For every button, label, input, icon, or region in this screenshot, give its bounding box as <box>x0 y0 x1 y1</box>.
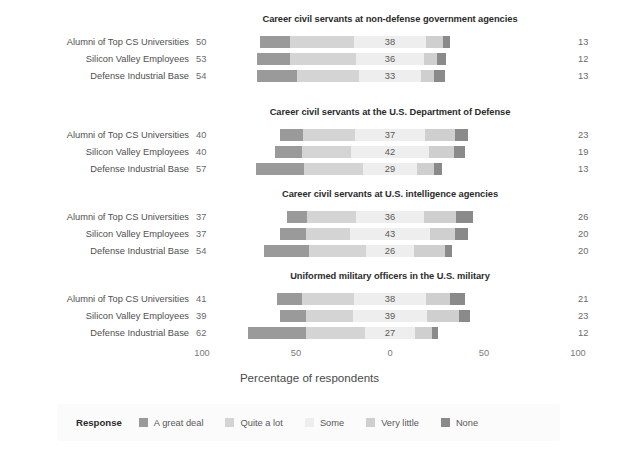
legend-label: Very little <box>381 418 419 428</box>
bar-segment <box>306 228 349 240</box>
chart-row: Defense Industrial Base541333 <box>0 70 619 85</box>
chart-row: Alumni of Top CS Universities402337 <box>0 129 619 144</box>
legend-item[interactable]: Very little <box>366 418 419 428</box>
row-bar: 29 <box>0 163 619 176</box>
chart-row: Alumni of Top CS Universities412138 <box>0 293 619 308</box>
chart-row: Alumni of Top CS Universities372636 <box>0 211 619 226</box>
bar-segment <box>290 36 354 48</box>
bar-segment <box>256 163 305 175</box>
bar-center-value: 39 <box>375 311 405 321</box>
bar-segment <box>455 228 468 240</box>
bar-center-value: 29 <box>375 164 405 174</box>
legend-swatch-icon <box>225 418 234 427</box>
bar-segment <box>257 70 296 82</box>
axis-tick-label: 50 <box>464 348 504 358</box>
bar-segment <box>309 245 365 257</box>
axis-tick-label: 100 <box>558 348 598 358</box>
row-bar: 33 <box>0 70 619 83</box>
bar-segment <box>445 245 453 257</box>
bar-segment <box>280 129 303 141</box>
bar-center-value: 26 <box>375 246 405 256</box>
row-bar: 36 <box>0 53 619 66</box>
chart-row: Silicon Valley Employees392339 <box>0 310 619 325</box>
chart-row: Alumni of Top CS Universities501338 <box>0 36 619 51</box>
bar-segment <box>304 163 362 175</box>
bar-segment <box>307 211 356 223</box>
legend-label: A great deal <box>154 418 204 428</box>
legend-item[interactable]: None <box>441 418 478 428</box>
x-axis: 10050050100 <box>0 348 619 364</box>
bar-segment <box>421 70 434 82</box>
bar-center-value: 43 <box>375 229 405 239</box>
bar-segment <box>430 228 454 240</box>
panel-title: Career civil servants at U.S. intelligen… <box>195 189 585 199</box>
bar-center-value: 37 <box>375 130 405 140</box>
bar-segment <box>280 310 306 322</box>
bar-segment <box>450 293 465 305</box>
bar-segment <box>426 36 443 48</box>
bar-segment <box>432 327 438 339</box>
panel-title: Career civil servants at the U.S. Depart… <box>195 107 585 117</box>
legend-item[interactable]: Some <box>305 418 344 428</box>
bar-segment <box>306 327 364 339</box>
bar-center-value: 36 <box>375 54 405 64</box>
bar-segment <box>302 146 351 158</box>
chart-row: Defense Industrial Base571329 <box>0 163 619 178</box>
bar-segment <box>306 310 353 322</box>
row-bar: 38 <box>0 36 619 49</box>
bar-center-value: 42 <box>375 147 405 157</box>
chart-row: Defense Industrial Base621227 <box>0 327 619 342</box>
bar-segment <box>426 293 450 305</box>
bar-segment <box>290 53 356 65</box>
bar-segment <box>264 245 309 257</box>
chart-row: Silicon Valley Employees401942 <box>0 146 619 161</box>
bar-segment <box>424 53 437 65</box>
row-bar: 36 <box>0 211 619 224</box>
bar-segment <box>434 163 442 175</box>
legend-item[interactable]: Quite a lot <box>225 418 282 428</box>
chart-row: Defense Industrial Base542026 <box>0 245 619 260</box>
legend-title: Response <box>76 417 122 428</box>
bar-segment <box>455 129 468 141</box>
bar-segment <box>248 327 306 339</box>
axis-tick-label: 100 <box>182 348 222 358</box>
legend-label: Some <box>320 418 344 428</box>
bar-segment <box>277 293 301 305</box>
row-bar: 26 <box>0 245 619 258</box>
bar-segment <box>280 228 306 240</box>
row-bar: 38 <box>0 293 619 306</box>
row-bar: 43 <box>0 228 619 241</box>
chart-row: Silicon Valley Employees372043 <box>0 228 619 243</box>
bar-segment <box>459 310 470 322</box>
bar-center-value: 27 <box>375 328 405 338</box>
axis-tick-label: 50 <box>276 348 316 358</box>
bar-segment <box>257 53 291 65</box>
bar-segment <box>424 211 456 223</box>
legend-swatch-icon <box>366 418 375 427</box>
bar-segment <box>429 146 453 158</box>
diverging-stacked-bar-chart: Career civil servants at non-defense gov… <box>0 0 619 459</box>
row-bar: 42 <box>0 146 619 159</box>
row-bar: 39 <box>0 310 619 323</box>
bar-segment <box>427 310 459 322</box>
bar-segment <box>425 129 455 141</box>
bar-segment <box>456 211 473 223</box>
bar-segment <box>417 163 434 175</box>
panel-title: Career civil servants at non-defense gov… <box>195 14 585 24</box>
legend-item[interactable]: A great deal <box>139 418 204 428</box>
row-bar: 27 <box>0 327 619 340</box>
bar-center-value: 38 <box>375 294 405 304</box>
legend-swatch-icon <box>305 418 314 427</box>
legend-label: Quite a lot <box>240 418 282 428</box>
bar-segment <box>434 70 445 82</box>
legend-label: None <box>456 418 478 428</box>
bar-segment <box>302 293 355 305</box>
bar-segment <box>297 70 359 82</box>
bar-segment <box>414 245 444 257</box>
row-bar: 37 <box>0 129 619 142</box>
x-axis-title: Percentage of respondents <box>0 371 619 384</box>
bar-segment <box>287 211 308 223</box>
bar-segment <box>437 53 446 65</box>
bar-segment <box>303 129 356 141</box>
bar-segment <box>275 146 301 158</box>
